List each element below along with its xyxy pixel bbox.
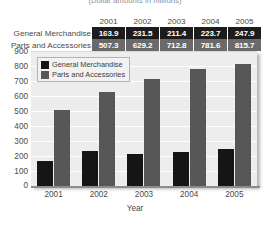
y-axis-tick-label: 700 bbox=[14, 78, 28, 86]
bar-group bbox=[173, 51, 206, 186]
table-col-header: 2005 bbox=[228, 15, 262, 27]
x-axis-tick-label: 2001 bbox=[34, 190, 74, 202]
table-cell: 211.4 bbox=[160, 27, 194, 39]
y-axis-tick-label: 400 bbox=[14, 123, 28, 131]
x-axis-line bbox=[31, 186, 260, 188]
y-axis-tick-label: 600 bbox=[14, 93, 28, 101]
x-axis-tick-label: 2003 bbox=[124, 190, 164, 202]
y-axis-tick-label: 100 bbox=[14, 168, 28, 176]
bar-parts-accessories bbox=[190, 69, 206, 186]
bar-parts-accessories bbox=[54, 110, 70, 186]
table-header-row: 2001 2002 2003 2004 2005 bbox=[10, 15, 262, 27]
x-axis-tick-label: 2004 bbox=[169, 190, 209, 202]
legend-item-general-merchandise: General Merchandise bbox=[41, 60, 125, 69]
table-row-label: General Merchandise bbox=[10, 27, 92, 39]
x-axis-title: Year bbox=[0, 204, 270, 213]
y-axis-tick-label: 800 bbox=[14, 63, 28, 71]
bar-general-merchandise bbox=[173, 152, 189, 186]
bar-parts-accessories bbox=[99, 92, 115, 186]
table-corner-cell bbox=[10, 15, 92, 27]
bar-group bbox=[218, 51, 251, 186]
chart-legend: General Merchandise Parts and Accessorie… bbox=[37, 57, 130, 82]
y-axis: 900 800 700 600 500 400 300 200 100 0 bbox=[0, 48, 28, 188]
table-cell: 231.5 bbox=[126, 27, 160, 39]
table-col-header: 2002 bbox=[126, 15, 160, 27]
x-axis-tick-label: 2002 bbox=[79, 190, 119, 202]
figure-caption: (Dollar amounts in millions) bbox=[0, 0, 270, 5]
legend-swatch-icon bbox=[41, 61, 49, 69]
table-col-header: 2003 bbox=[160, 15, 194, 27]
legend-label: General Merchandise bbox=[52, 60, 123, 69]
x-axis: 2001 2002 2003 2004 2005 bbox=[31, 190, 257, 202]
bar-chart: 900 800 700 600 500 400 300 200 100 0 bbox=[0, 48, 270, 225]
bar-general-merchandise bbox=[37, 161, 53, 186]
bar-general-merchandise bbox=[218, 149, 234, 186]
table-cell: 247.9 bbox=[228, 27, 262, 39]
legend-swatch-icon bbox=[41, 71, 49, 79]
chart-figure: (Dollar amounts in millions) 2001 2002 2… bbox=[0, 0, 270, 225]
bar-general-merchandise bbox=[82, 151, 98, 186]
table-row: General Merchandise 163.9 231.5 211.4 22… bbox=[10, 27, 262, 39]
bar-general-merchandise bbox=[127, 154, 143, 186]
bar-parts-accessories bbox=[144, 79, 160, 186]
plot-area: General Merchandise Parts and Accessorie… bbox=[31, 51, 257, 186]
data-table: 2001 2002 2003 2004 2005 General Merchan… bbox=[10, 15, 262, 51]
y-axis-tick-label: 900 bbox=[14, 48, 28, 56]
table-cell: 223.7 bbox=[194, 27, 228, 39]
bar-group bbox=[127, 51, 160, 186]
y-axis-tick-label: 0 bbox=[23, 182, 28, 190]
table-col-header: 2001 bbox=[92, 15, 126, 27]
table-cell: 163.9 bbox=[92, 27, 126, 39]
y-axis-tick-label: 500 bbox=[14, 108, 28, 116]
x-axis-tick-label: 2005 bbox=[214, 190, 254, 202]
legend-label: Parts and Accessories bbox=[52, 70, 125, 79]
y-axis-tick-label: 300 bbox=[14, 138, 28, 146]
table-col-header: 2004 bbox=[194, 15, 228, 27]
legend-item-parts-accessories: Parts and Accessories bbox=[41, 70, 125, 79]
bar-parts-accessories bbox=[235, 64, 251, 186]
y-axis-tick-label: 200 bbox=[14, 153, 28, 161]
